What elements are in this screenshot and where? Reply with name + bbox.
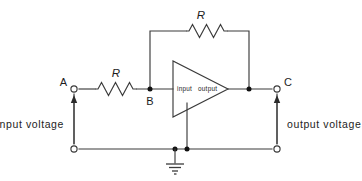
up-arrow-icon bbox=[274, 95, 280, 103]
output-voltage-label: output voltage bbox=[287, 118, 361, 130]
terminal-c[interactable] bbox=[274, 86, 280, 92]
input-resistor-label: R bbox=[112, 67, 120, 79]
opamp-input-label: input bbox=[177, 85, 192, 93]
input-voltage-label: input voltage bbox=[0, 118, 64, 130]
feedback-right-wire bbox=[228, 31, 249, 89]
feedback-branch: R bbox=[150, 9, 249, 89]
junction-dot-icon bbox=[247, 87, 252, 92]
input-branch: R bbox=[79, 67, 173, 96]
feedback-resistor-label: R bbox=[197, 9, 205, 21]
node-c-label: C bbox=[284, 76, 292, 88]
ground-symbol bbox=[166, 149, 184, 174]
schematic-canvas: R R input output bbox=[0, 0, 362, 181]
circuit-diagram: R R input output bbox=[0, 0, 362, 181]
input-voltage-arrow bbox=[71, 95, 77, 144]
junction-dot-icon bbox=[148, 87, 153, 92]
node-a-label: A bbox=[60, 76, 68, 88]
up-arrow-icon bbox=[71, 95, 77, 103]
junction-dot-icon bbox=[185, 147, 190, 152]
terminal-input-return[interactable] bbox=[71, 146, 77, 152]
feedback-left-wire bbox=[150, 31, 186, 89]
output-voltage-arrow bbox=[274, 95, 280, 144]
resistor-zigzag-icon bbox=[95, 83, 137, 96]
resistor-zigzag-icon bbox=[186, 25, 228, 38]
opamp-output-label: output bbox=[198, 85, 217, 93]
terminal-a[interactable] bbox=[71, 86, 77, 92]
terminal-output-return[interactable] bbox=[274, 146, 280, 152]
node-b-label: B bbox=[146, 95, 153, 107]
